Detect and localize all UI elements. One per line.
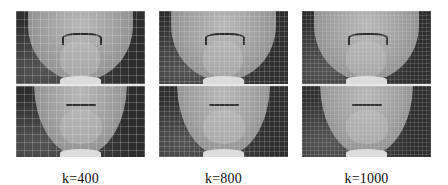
panel-k800: k=800 [159,11,288,157]
mesh-image [16,11,145,157]
panel-k1000: k=1000 [302,11,431,157]
upper-view [302,11,431,84]
lower-view [302,86,431,157]
lower-view [16,86,145,157]
lower-view [159,86,288,157]
panel-k400: k=400 [16,11,145,157]
panel-caption: k=400 [16,171,145,185]
upper-view [16,11,145,84]
panel-caption: k=1000 [302,171,431,185]
mesh-image [302,11,431,157]
mesh-image [159,11,288,157]
upper-view [159,11,288,84]
panel-caption: k=800 [159,171,288,185]
